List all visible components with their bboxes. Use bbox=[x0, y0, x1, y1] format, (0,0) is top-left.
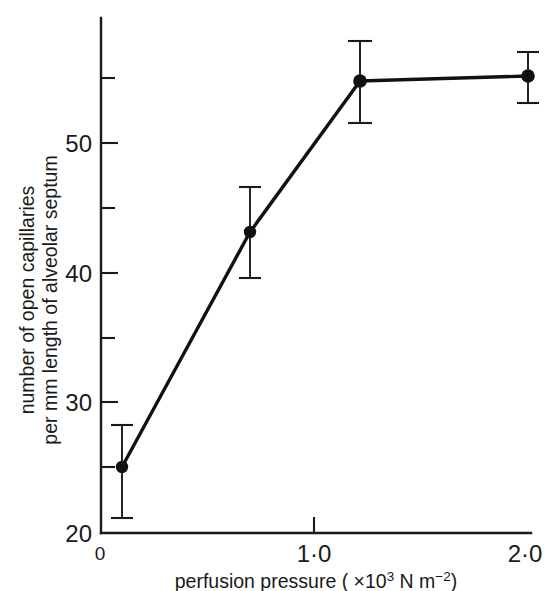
y-axis-title-line-1: number of open capillaries bbox=[16, 185, 38, 414]
x-tick-label-2-0: 2·0 bbox=[508, 540, 543, 567]
x-tick-label-1-0: 1·0 bbox=[297, 540, 332, 567]
x-axis-title-main: perfusion pressure ( ×10 bbox=[175, 570, 387, 591]
y-tick-label-30: 30 bbox=[65, 389, 92, 416]
x-tick-label-0: 0 bbox=[95, 543, 106, 564]
y-tick-label-50: 50 bbox=[65, 130, 92, 157]
y-axis-title: number of open capillaries per mm length… bbox=[16, 155, 61, 444]
data-series-line bbox=[122, 76, 528, 467]
y-tick-labels: 50 40 30 20 bbox=[65, 130, 92, 547]
y-tick-label-20: 20 bbox=[65, 520, 92, 547]
axes-group bbox=[101, 18, 531, 533]
x-axis-title-mid: N m bbox=[394, 570, 435, 591]
y-axis-ticks bbox=[101, 78, 118, 467]
error-bars-group bbox=[111, 41, 539, 518]
x-axis-title-exponent-2: −2 bbox=[435, 569, 450, 584]
x-tick-labels: 0 1·0 2·0 bbox=[95, 540, 543, 567]
data-point-1 bbox=[116, 461, 128, 473]
x-axis-title-end: ) bbox=[451, 570, 458, 591]
y-tick-label-40: 40 bbox=[65, 260, 92, 287]
line-chart: 50 40 30 20 0 1·0 2·0 bbox=[0, 0, 555, 591]
data-point-2 bbox=[244, 226, 256, 238]
data-point-4 bbox=[521, 69, 535, 83]
x-axis-title: perfusion pressure ( ×103 N m−2) bbox=[175, 569, 458, 591]
x-axis-title-exponent-1: 3 bbox=[387, 569, 395, 584]
y-axis-title-line-2: per mm length of alveolar septum bbox=[39, 155, 61, 444]
data-point-3 bbox=[353, 74, 367, 88]
figure-container: 50 40 30 20 0 1·0 2·0 bbox=[0, 0, 555, 591]
